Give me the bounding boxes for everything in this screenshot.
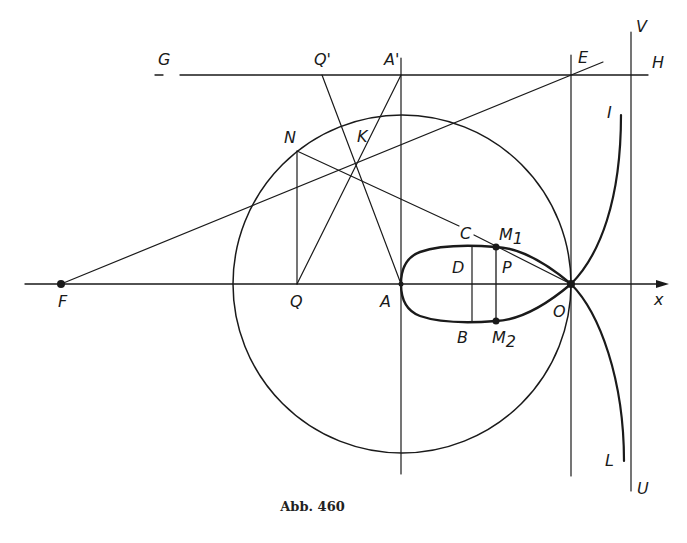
line-N-C	[297, 151, 459, 226]
label-I: I	[607, 103, 612, 122]
label-H: H	[652, 53, 664, 72]
label-x: x	[653, 290, 664, 309]
label-G: G	[158, 50, 170, 69]
label-M1: M1	[499, 225, 523, 248]
label-A: A	[379, 292, 391, 311]
strophoid-diagram: G Q' A' E V H N K C M1 D P F Q A B M2 O …	[0, 0, 687, 543]
strophoid-branch-L	[571, 284, 624, 461]
label-Q-prime: Q'	[314, 50, 331, 69]
figure-caption-wrap: Abb. 460	[0, 499, 687, 514]
label-B: B	[457, 328, 468, 347]
line-Q-prime-A	[322, 75, 401, 284]
point-O	[567, 280, 575, 288]
line-F-E	[61, 62, 603, 284]
label-K: K	[357, 127, 369, 146]
label-C: C	[460, 224, 472, 243]
label-L: L	[605, 451, 614, 470]
label-F: F	[58, 292, 68, 311]
label-A-prime: A'	[383, 50, 399, 69]
x-axis-arrow-icon	[656, 280, 669, 288]
label-N: N	[284, 128, 296, 147]
label-U: U	[637, 479, 649, 498]
label-M2: M2	[492, 328, 516, 351]
point-M1	[493, 244, 500, 251]
label-P: P	[502, 258, 512, 277]
line-A-prime-Q	[297, 75, 401, 284]
figure-caption: Abb. 460	[280, 499, 344, 514]
point-A	[399, 282, 404, 287]
label-V: V	[636, 17, 648, 36]
strophoid-branch-I	[571, 115, 621, 284]
label-E: E	[578, 48, 589, 67]
label-D: D	[452, 258, 464, 277]
point-F	[57, 280, 65, 288]
label-Q: Q	[290, 292, 303, 311]
point-M2	[493, 318, 500, 325]
label-O: O	[553, 302, 566, 321]
